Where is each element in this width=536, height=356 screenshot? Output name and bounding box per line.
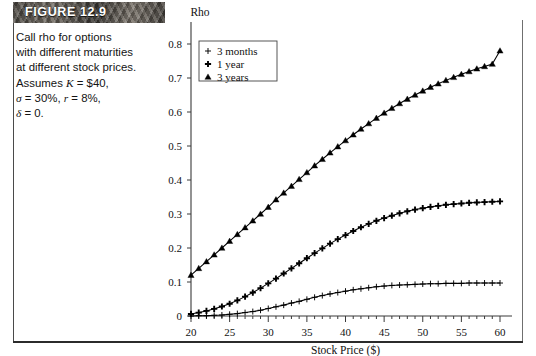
marker-3-months: [211, 312, 217, 318]
marker-1-year: [219, 303, 225, 309]
y-axis-title: Rho: [190, 6, 209, 18]
marker-1-year: [312, 250, 318, 256]
figure-container: FIGURE 12.9 Call rho for options with di…: [0, 0, 536, 356]
marker-1-year: [481, 199, 487, 205]
x-tick-label: 60: [495, 326, 507, 338]
marker-1-year: [250, 289, 256, 295]
marker-3-months: [435, 281, 441, 287]
marker-3-years: [358, 126, 364, 131]
y-tick-label: 0.8: [168, 38, 182, 50]
marker-1-year: [427, 204, 433, 210]
marker-3-months: [319, 293, 325, 299]
marker-1-year: [435, 203, 441, 209]
marker-3-months: [482, 280, 488, 286]
y-tick-label: 0.2: [168, 242, 182, 254]
marker-1-year: [327, 240, 333, 246]
x-tick-label: 30: [263, 326, 275, 338]
marker-1-year: [366, 221, 372, 227]
marker-3-months: [250, 309, 256, 315]
marker-3-months: [497, 280, 503, 286]
marker-3-months: [312, 294, 318, 300]
x-axis-title: Stock Price ($): [311, 344, 380, 356]
marker-1-year: [227, 301, 233, 307]
marker-1-year: [420, 205, 426, 211]
marker-1-year: [335, 236, 341, 242]
marker-1-year: [342, 232, 348, 238]
marker-1-year: [373, 218, 379, 224]
marker-3-years: [350, 132, 356, 137]
x-tick-label: 50: [417, 326, 429, 338]
marker-1-year: [389, 213, 395, 219]
marker-1-year: [451, 201, 457, 207]
x-tick-label: 20: [186, 326, 198, 338]
marker-1-year: [412, 206, 418, 212]
legend-label-1-year: 1 year: [217, 58, 245, 70]
marker-1-year: [319, 245, 325, 251]
marker-3-months: [335, 290, 341, 296]
marker-1-year: [203, 308, 209, 314]
marker-3-months: [258, 307, 264, 313]
marker-3-years: [389, 105, 395, 110]
marker-1-year: [257, 285, 263, 291]
marker-3-months: [397, 282, 403, 288]
x-tick-label: 35: [301, 326, 313, 338]
marker-3-months: [304, 296, 310, 302]
y-tick-label: 0.6: [168, 106, 182, 118]
marker-3-months: [281, 302, 287, 308]
marker-1-year: [288, 265, 294, 271]
legend-label-3-months: 3 months: [217, 45, 258, 57]
marker-1-year: [234, 297, 240, 303]
marker-1-year: [273, 276, 279, 282]
marker-3-years: [412, 92, 418, 97]
marker-3-years: [342, 137, 348, 142]
x-tick-label: 25: [224, 326, 236, 338]
marker-1-year: [443, 202, 449, 208]
marker-3-years: [497, 48, 503, 53]
marker-3-months: [420, 281, 426, 287]
marker-3-months: [288, 300, 294, 306]
marker-3-years: [420, 88, 426, 93]
marker-1-year: [381, 215, 387, 221]
marker-1-year: [458, 200, 464, 206]
y-tick-label: 0.4: [168, 174, 182, 186]
marker-3-months: [474, 280, 480, 286]
rho-line-chart: 00.10.20.30.40.50.60.70.8Rho202530354045…: [0, 0, 536, 356]
marker-3-months: [458, 280, 464, 286]
marker-3-months: [366, 285, 372, 291]
marker-1-year: [242, 294, 248, 300]
marker-1-year: [474, 199, 480, 205]
marker-3-years: [489, 61, 495, 66]
marker-3-years: [366, 120, 372, 125]
marker-3-months: [466, 280, 472, 286]
marker-3-months: [427, 281, 433, 287]
marker-3-months: [358, 286, 364, 292]
x-tick-label: 45: [379, 326, 391, 338]
marker-1-year: [404, 208, 410, 214]
marker-3-months: [404, 282, 410, 288]
marker-3-months: [242, 310, 248, 316]
x-tick-label: 55: [456, 326, 468, 338]
marker-1-year: [304, 255, 310, 261]
y-tick-label: 0.5: [168, 140, 182, 152]
series-line-1-year: [191, 201, 500, 314]
marker-3-months: [489, 280, 495, 286]
marker-3-months: [343, 288, 349, 294]
marker-1-year: [489, 199, 495, 205]
marker-3-months: [219, 312, 225, 318]
marker-1-year: [358, 224, 364, 230]
series-line-3-years: [191, 51, 500, 275]
x-tick-label: 40: [340, 326, 352, 338]
marker-3-years: [381, 110, 387, 115]
marker-3-months: [373, 284, 379, 290]
y-tick-label: 0: [177, 310, 183, 322]
marker-1-year: [466, 200, 472, 206]
marker-1-year: [196, 310, 202, 316]
marker-3-months: [265, 306, 271, 312]
y-tick-label: 0.3: [168, 208, 182, 220]
marker-3-months: [451, 280, 457, 286]
legend-label-3-years: 3 years: [217, 71, 248, 83]
marker-3-months: [389, 282, 395, 288]
marker-3-years: [404, 96, 410, 101]
marker-1-year: [350, 228, 356, 234]
marker-3-years: [396, 100, 402, 105]
